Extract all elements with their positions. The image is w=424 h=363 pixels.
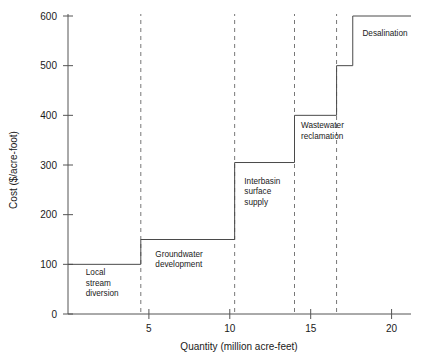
step-annotation-line: surface	[244, 187, 271, 196]
step-annotation: Desalination	[362, 29, 408, 38]
step-chart: 0100200300400500600 5101520 Localstreamd…	[0, 0, 424, 363]
step-annotation-line: Desalination	[362, 29, 408, 38]
step-annotation-line: Interbasin	[244, 177, 280, 186]
x-tick-label: 10	[224, 323, 236, 334]
chart-background	[0, 0, 424, 363]
step-annotation-line: stream	[86, 279, 111, 288]
step-annotation-line: development	[155, 260, 203, 269]
step-annotation: Groundwaterdevelopment	[155, 250, 203, 270]
y-tick-label: 500	[40, 60, 57, 71]
x-axis-title: Quantity (million acre-feet)	[180, 341, 297, 352]
step-annotation-line: supply	[244, 198, 269, 207]
chart-canvas: 0100200300400500600 5101520 Localstreamd…	[0, 0, 424, 363]
y-tick-label: 0	[51, 309, 57, 320]
y-tick-label: 400	[40, 110, 57, 121]
x-tick-label: 5	[146, 323, 152, 334]
y-tick-label: 300	[40, 160, 57, 171]
step-annotation-line: Wastewater	[301, 121, 344, 130]
step-annotation-line: reclamation	[301, 132, 344, 141]
x-tick-label: 15	[305, 323, 317, 334]
y-axis-title: Cost ($/acre-foot)	[8, 131, 19, 209]
y-tick-label: 100	[40, 259, 57, 270]
step-annotation-line: Local	[86, 268, 106, 277]
step-annotation: Wastewaterreclamation	[301, 121, 344, 141]
y-tick-label: 200	[40, 209, 57, 220]
step-annotation-line: diversion	[86, 289, 119, 298]
x-tick-label: 20	[386, 323, 398, 334]
step-annotation-line: Groundwater	[155, 250, 203, 259]
y-tick-label: 600	[40, 11, 57, 22]
